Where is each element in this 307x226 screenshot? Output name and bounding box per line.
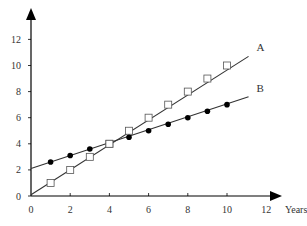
data-point-square [224,62,231,69]
x-axis-label: Years [285,204,307,215]
x-axis-arrow-icon [270,191,282,201]
x-tick-label: 6 [146,204,151,215]
data-point-square [126,127,133,134]
x-tick-label: 10 [222,204,232,215]
data-point-circle [67,153,73,159]
data-point-square [184,88,191,95]
line-chart: 024681012024681012 YearsAB [0,0,307,226]
data-point-circle [165,121,171,127]
data-point-circle [126,134,132,140]
labels-layer: YearsAB [257,41,307,215]
data-point-square [106,140,113,147]
series-label-B: B [257,82,264,94]
x-tick-label: 12 [261,204,271,215]
y-tick-label: 6 [16,112,21,123]
x-tick-label: 8 [185,204,190,215]
series-line-A [31,56,249,194]
data-point-circle [224,102,230,108]
x-tick-label: 2 [68,204,73,215]
data-point-circle [205,108,211,114]
data-point-square [47,179,54,186]
data-point-circle [87,146,93,152]
series-layer [31,56,249,194]
y-tick-label: 10 [11,60,21,71]
data-point-square [67,166,74,173]
data-point-circle [146,128,152,134]
y-tick-label: 2 [16,164,21,175]
data-point-circle [48,159,54,165]
data-point-square [86,153,93,160]
series-label-A: A [257,41,265,53]
y-tick-label: 0 [16,191,21,202]
series-line-B [31,97,249,169]
data-point-square [165,101,172,108]
x-tick-label: 4 [107,204,112,215]
y-axis-arrow-icon [26,8,36,20]
y-tick-label: 4 [16,138,21,149]
data-point-square [145,114,152,121]
x-tick-label: 0 [29,204,34,215]
data-point-square [204,75,211,82]
y-tick-label: 8 [16,86,21,97]
y-tick-label: 12 [11,34,21,45]
data-point-circle [185,115,191,121]
